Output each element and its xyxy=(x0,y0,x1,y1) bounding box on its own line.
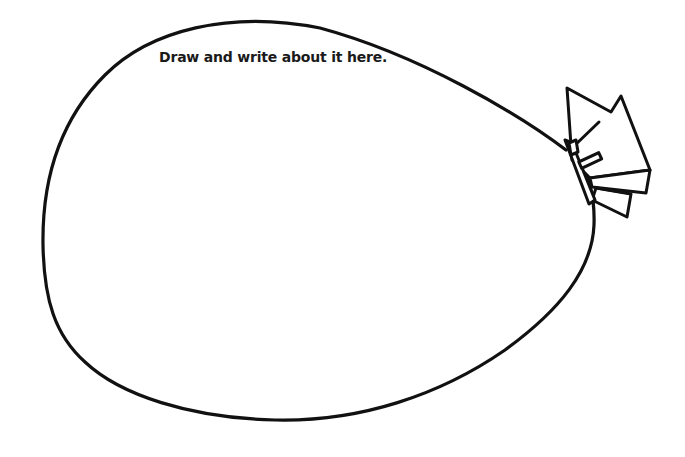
worksheet-prompt: Draw and write about it here. xyxy=(159,49,387,65)
drawing-area[interactable] xyxy=(60,80,580,400)
